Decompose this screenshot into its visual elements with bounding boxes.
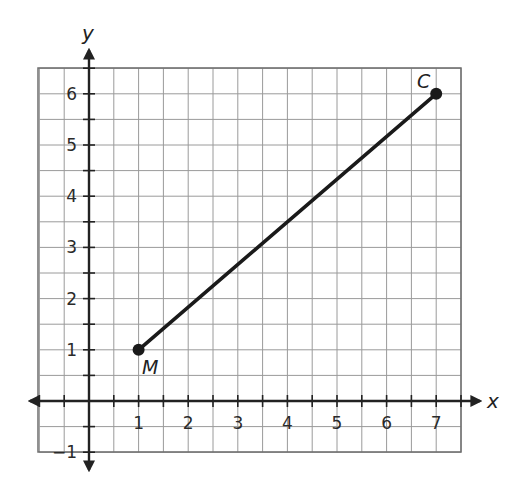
x-axis-label: x (486, 389, 499, 413)
y-axis-label: y (81, 21, 95, 45)
x-tick-label: 4 (282, 413, 293, 433)
point-label-m: M (142, 356, 158, 378)
y-tick-label: 2 (66, 289, 77, 309)
y-tick-label: 5 (66, 135, 77, 155)
point-label-c: C (417, 70, 431, 92)
x-tick-label: 3 (232, 413, 243, 433)
y-tick-label: 6 (66, 84, 77, 104)
x-tick-label: 1 (133, 413, 144, 433)
y-tick-label: −1 (52, 442, 77, 462)
point-m (133, 344, 145, 356)
x-tick-label: 6 (381, 413, 392, 433)
y-tick-label: 4 (66, 186, 77, 206)
x-tick-label: 7 (431, 413, 442, 433)
x-tick-label: 2 (183, 413, 194, 433)
coordinate-plane: 1234567−1123456 x y M C (0, 0, 528, 488)
y-tick-label: 3 (66, 237, 77, 257)
x-tick-label: 5 (332, 413, 343, 433)
y-tick-label: 1 (66, 340, 77, 360)
point-c (430, 88, 442, 100)
